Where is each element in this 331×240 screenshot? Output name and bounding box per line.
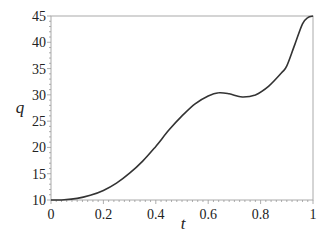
y-axis-label: q <box>16 98 25 117</box>
x-tick-label: 0.6 <box>199 207 217 222</box>
x-tick-label: 0.4 <box>147 207 165 222</box>
x-tick-label: 0.8 <box>252 207 270 222</box>
y-tick-label: 30 <box>32 88 46 103</box>
data-line <box>51 16 313 200</box>
y-tick-label: 25 <box>32 114 46 129</box>
line-chart: 1015202530354045 00.20.40.60.81 t q <box>0 0 331 240</box>
y-tick-label: 40 <box>32 35 46 50</box>
y-tick-label: 10 <box>32 193 46 208</box>
x-tick-label: 1 <box>310 207 317 222</box>
x-axis-label: t <box>181 214 187 233</box>
x-tick-label: 0.2 <box>95 207 113 222</box>
y-tick-label: 20 <box>32 140 46 155</box>
y-tick-label: 15 <box>32 167 46 182</box>
x-tick-label: 0 <box>48 207 55 222</box>
plot-frame <box>51 16 313 200</box>
y-axis: 1015202530354045 <box>32 9 51 208</box>
y-tick-label: 35 <box>32 62 46 77</box>
y-tick-label: 45 <box>32 9 46 24</box>
